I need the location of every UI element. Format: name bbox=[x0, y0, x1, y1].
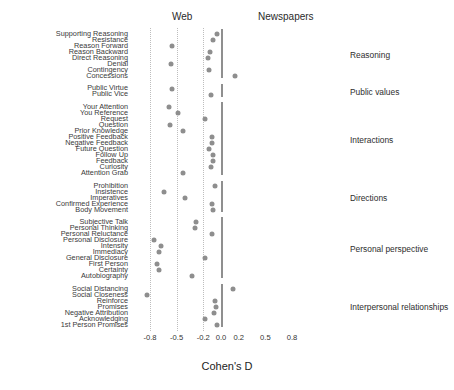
data-point bbox=[145, 292, 150, 297]
data-point bbox=[156, 250, 161, 255]
x-axis-title: Cohen's D bbox=[0, 360, 454, 372]
data-point bbox=[170, 86, 175, 91]
data-point bbox=[156, 268, 161, 273]
header-label-newspapers: Newspapers bbox=[258, 11, 314, 22]
data-point bbox=[170, 44, 175, 49]
data-point bbox=[210, 201, 215, 206]
plot-area bbox=[131, 28, 321, 331]
x-tick-neg0p8: -0.8 bbox=[143, 333, 156, 342]
data-point bbox=[212, 183, 217, 188]
data-point bbox=[210, 141, 215, 146]
group-label-reasoning: Reasoning bbox=[350, 50, 390, 60]
x-tick-neg0p5: -0.5 bbox=[170, 333, 183, 342]
gridline-neg0p8 bbox=[150, 28, 151, 331]
data-point bbox=[175, 111, 180, 116]
x-tick-neg0p2: -0.2 bbox=[197, 333, 210, 342]
chart-figure: Web Newspapers Supporting ReasoningResis… bbox=[0, 0, 454, 390]
group-label-public-values: Public values bbox=[350, 87, 399, 97]
data-point bbox=[211, 153, 216, 158]
zero-reference-line-segment bbox=[221, 102, 223, 175]
group-label-interactions: Interactions bbox=[350, 135, 393, 145]
y-axis-label: Attention Grab bbox=[81, 169, 128, 177]
data-point bbox=[230, 286, 235, 291]
zero-reference-line-segment bbox=[221, 84, 223, 97]
data-point bbox=[209, 92, 214, 97]
data-point bbox=[211, 310, 216, 315]
data-point bbox=[180, 129, 185, 134]
data-point bbox=[233, 74, 238, 79]
data-point bbox=[162, 189, 167, 194]
data-point bbox=[208, 50, 213, 55]
header-label-web: Web bbox=[172, 11, 192, 22]
x-tick-0p5: 0.5 bbox=[260, 333, 271, 342]
data-point bbox=[207, 147, 212, 152]
y-axis-label: Autobiography bbox=[81, 272, 128, 280]
data-point bbox=[205, 56, 210, 61]
y-axis-labels: Supporting ReasoningResistanceReason For… bbox=[0, 28, 128, 331]
zero-reference-line-segment bbox=[221, 181, 223, 212]
zero-reference-line-segment bbox=[221, 217, 223, 278]
data-point bbox=[169, 62, 174, 67]
data-point bbox=[182, 195, 187, 200]
data-point bbox=[214, 322, 219, 327]
data-point bbox=[210, 232, 215, 237]
x-tick-0p0: 0.0 bbox=[216, 333, 227, 342]
data-point bbox=[203, 256, 208, 261]
group-label-personal-perspective: Personal perspective bbox=[350, 244, 428, 254]
data-point bbox=[158, 244, 163, 249]
data-point bbox=[203, 117, 208, 122]
group-labels: ReasoningPublic valuesInteractionsDirect… bbox=[324, 28, 454, 331]
data-point bbox=[211, 38, 216, 43]
data-point bbox=[206, 68, 211, 73]
gridline-neg0p5 bbox=[177, 28, 178, 331]
data-point bbox=[209, 165, 214, 170]
data-point bbox=[168, 123, 173, 128]
zero-reference-line-segment bbox=[221, 29, 223, 78]
data-point bbox=[189, 274, 194, 279]
data-point bbox=[210, 135, 215, 140]
data-point bbox=[203, 316, 208, 321]
zero-reference-line-segment bbox=[221, 284, 223, 327]
data-point bbox=[151, 238, 156, 243]
data-point bbox=[194, 220, 199, 225]
y-axis-label: Public Vice bbox=[92, 90, 128, 98]
data-point bbox=[155, 262, 160, 267]
data-point bbox=[211, 207, 216, 212]
x-axis-ticks: -0.8-0.5-0.20.00.20.50.8 bbox=[131, 333, 321, 349]
y-axis-label: 1st Person Promises bbox=[61, 321, 128, 329]
y-axis-label: Body Movement bbox=[75, 206, 128, 214]
data-point bbox=[215, 32, 220, 37]
data-point bbox=[211, 159, 216, 164]
data-point bbox=[212, 298, 217, 303]
x-tick-0p8: 0.8 bbox=[287, 333, 298, 342]
data-point bbox=[166, 105, 171, 110]
group-label-interpersonal-relationships: Interpersonal relationships bbox=[350, 302, 448, 312]
x-tick-0p2: 0.2 bbox=[233, 333, 244, 342]
gridline-neg0p2 bbox=[203, 28, 204, 331]
y-axis-label: Concessions bbox=[86, 72, 128, 80]
data-point bbox=[193, 226, 198, 231]
data-point bbox=[213, 304, 218, 309]
group-label-directions: Directions bbox=[350, 193, 387, 203]
data-point bbox=[180, 171, 185, 176]
